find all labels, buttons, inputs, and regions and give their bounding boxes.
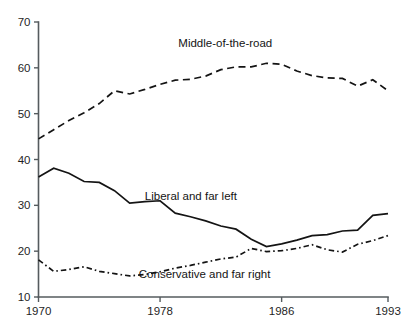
line-chart: 10203040506070 1970197819861993 Middle-o… xyxy=(0,0,418,325)
series-label-liberal-and-far-left: Liberal and far left xyxy=(145,190,238,202)
y-tick-label: 60 xyxy=(18,62,31,74)
x-tick-label: 1970 xyxy=(26,305,52,317)
chart-canvas: 10203040506070 1970197819861993 Middle-o… xyxy=(0,0,418,325)
x-tick-label: 1978 xyxy=(147,305,173,317)
y-axis-ticks: 10203040506070 xyxy=(18,16,39,303)
x-tick-label: 1993 xyxy=(375,305,401,317)
series-label-middle-of-the-road: Middle-of-the-road xyxy=(178,37,272,49)
series-line-middle-of-the-road xyxy=(39,63,389,139)
y-tick-label: 10 xyxy=(18,291,31,303)
y-tick-label: 50 xyxy=(18,108,31,120)
x-axis: 1970197819861993 xyxy=(26,297,401,317)
y-axis: 10203040506070 xyxy=(18,16,39,303)
series-line-liberal-and-far-left xyxy=(39,168,389,246)
x-tick-label: 1986 xyxy=(269,305,295,317)
series-layer xyxy=(39,63,389,276)
x-axis-ticks: 1970197819861993 xyxy=(26,297,401,317)
series-annotations: Middle-of-the-roadLiberal and far leftCo… xyxy=(139,37,272,280)
y-tick-label: 40 xyxy=(18,154,31,166)
y-tick-label: 70 xyxy=(18,16,31,28)
y-tick-label: 30 xyxy=(18,199,31,211)
series-label-conservative-and-far-right: Conservative and far right xyxy=(139,268,271,280)
y-tick-label: 20 xyxy=(18,245,31,257)
